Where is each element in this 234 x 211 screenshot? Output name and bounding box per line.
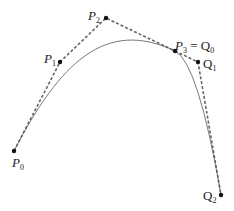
label-q2: Q2 (203, 188, 216, 205)
point-q1 (196, 60, 200, 64)
point-p2 (104, 16, 108, 20)
bezier-diagram: P0 P1 P2 P3 = Q0 Q1 Q2 (0, 0, 234, 211)
point-p0 (12, 149, 16, 153)
label-p3-q0: P3 = Q0 (174, 38, 214, 55)
label-p1: P1 (43, 51, 56, 68)
label-q1: Q1 (203, 56, 216, 73)
label-p2: P2 (87, 8, 100, 25)
point-p1 (58, 60, 62, 64)
label-p0: P0 (11, 155, 24, 172)
point-q2 (219, 193, 223, 197)
control-polygon-p (14, 18, 175, 151)
bezier-curve-p (14, 40, 175, 151)
